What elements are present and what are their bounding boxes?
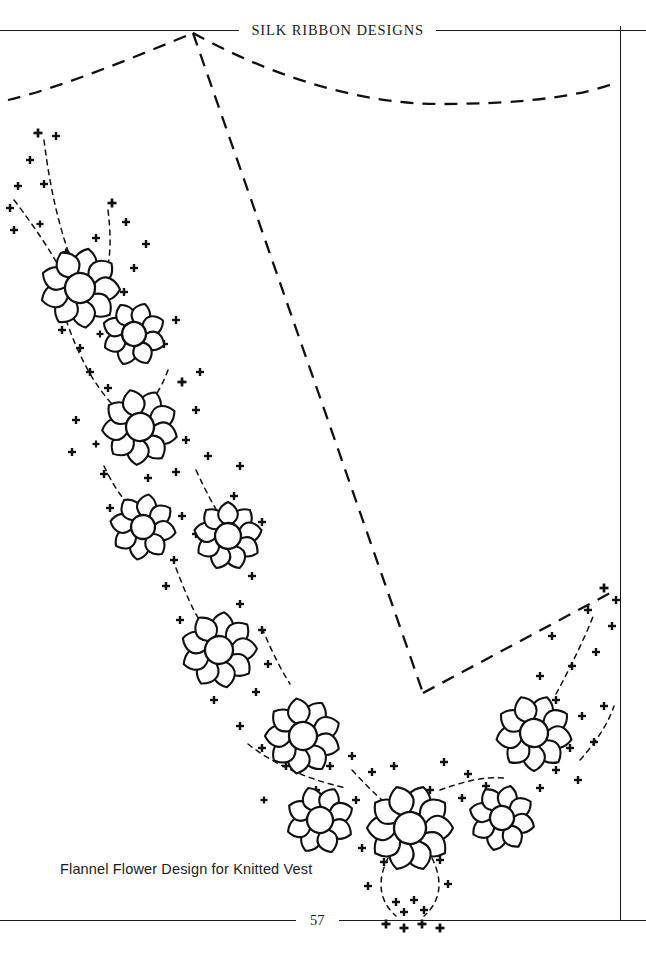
- cross-stitch-mark: [76, 344, 84, 352]
- cross-stitch-mark: [368, 768, 376, 776]
- cross-stitch-mark: [93, 441, 100, 448]
- cross-stitch-mark: [172, 468, 180, 476]
- cross-stitch-mark: [600, 702, 608, 710]
- flower-4: [105, 489, 181, 565]
- footer-rule-left-icon: [0, 920, 296, 921]
- footer-rule-right-icon: [339, 920, 646, 921]
- cross-stitch-mark: [182, 436, 190, 444]
- cross-stitch-mark: [248, 572, 256, 580]
- cross-stitch-mark: [144, 474, 152, 482]
- page-canvas: SILK RIBBON DESIGNS Flannel Flower Desig…: [0, 0, 646, 980]
- flower-11: [484, 684, 584, 784]
- cross-stitch-mark: [252, 688, 260, 696]
- cross-stitch-mark: [258, 626, 266, 634]
- cross-stitch-mark: [122, 218, 130, 226]
- cross-stitch-mark: [120, 288, 128, 296]
- cross-stitch-mark: [172, 316, 180, 324]
- cross-stitch-mark: [574, 776, 582, 784]
- cross-stitch-mark: [52, 132, 60, 140]
- cross-stitch-mark: [178, 378, 187, 387]
- cross-stitch-mark: [178, 512, 186, 520]
- flower-group: [31, 240, 584, 882]
- embroidery-pattern-artwork: [0, 0, 646, 980]
- pattern-svg: [0, 0, 646, 980]
- cross-stitch-mark: [264, 660, 272, 668]
- cross-stitch-mark: [100, 470, 108, 478]
- cross-stitch-mark: [14, 182, 22, 190]
- cross-stitch-mark: [326, 762, 334, 770]
- cross-stitch-mark: [170, 556, 178, 564]
- right-neckline-diagonal: [423, 592, 612, 693]
- cross-stitch-mark: [40, 180, 48, 188]
- cross-stitch-mark: [10, 226, 18, 234]
- flower-7: [249, 683, 356, 789]
- cross-stitch-mark: [176, 616, 184, 624]
- cross-stitch-mark: [6, 204, 14, 212]
- cross-stitch-mark: [458, 794, 466, 802]
- stem-left-chain: [66, 320, 112, 404]
- left-neckline-diagonal: [193, 33, 423, 693]
- cross-stitch-mark: [58, 326, 66, 334]
- cross-stitch-mark: [552, 696, 560, 704]
- flower-6: [175, 607, 264, 695]
- cross-stitch-mark: [258, 744, 266, 752]
- stem-left-upper: [44, 140, 72, 262]
- cross-stitch-mark: [106, 504, 114, 512]
- flower-10: [462, 778, 543, 859]
- cross-stitch-mark: [592, 648, 600, 656]
- flower-3: [88, 376, 192, 479]
- cross-stitch-mark: [536, 672, 544, 680]
- cross-stitch-mark: [97, 331, 104, 338]
- stem-right-chain2: [580, 706, 614, 760]
- cross-stitch-mark: [590, 738, 598, 746]
- cross-stitch-mark: [444, 880, 452, 888]
- cross-stitch-mark: [436, 856, 444, 864]
- stem-right-chain: [556, 614, 594, 694]
- cross-stitch-mark: [68, 448, 76, 456]
- cross-stitch-mark: [348, 752, 356, 760]
- cross-stitch-mark: [536, 784, 544, 792]
- cross-stitch-mark: [390, 762, 398, 770]
- cross-stitch-mark: [392, 898, 400, 906]
- cross-stitch-mark: [130, 264, 138, 272]
- cross-stitch-mark: [612, 596, 620, 604]
- right-shoulder-curve: [193, 33, 618, 104]
- stem-low-chain3: [440, 778, 504, 790]
- cross-stitch-mark: [236, 600, 244, 608]
- cross-stitch-mark: [578, 712, 586, 720]
- cross-stitch-mark: [552, 766, 560, 774]
- figure-caption: Flannel Flower Design for Knitted Vest: [60, 861, 312, 877]
- page-footer: 57: [0, 908, 646, 932]
- left-shoulder-curve: [8, 33, 193, 100]
- cross-stitch-mark: [230, 492, 238, 500]
- cross-stitch-mark: [410, 896, 418, 904]
- cross-stitch-mark: [548, 632, 556, 640]
- cross-stitch-mark: [236, 722, 244, 730]
- cross-stitch-mark: [92, 234, 100, 242]
- cross-stitch-mark: [608, 622, 616, 630]
- cross-stitch-mark: [568, 662, 576, 670]
- stem-mid-chain4: [262, 628, 290, 684]
- cross-stitch-mark: [352, 796, 360, 804]
- cross-stitch-mark: [37, 221, 44, 228]
- cross-stitch-mark: [108, 199, 117, 208]
- cross-stitch-mark: [440, 758, 448, 766]
- page-number: 57: [296, 912, 339, 929]
- cross-stitch-mark: [104, 384, 112, 392]
- cross-stitch-mark: [261, 797, 268, 804]
- cross-stitch-mark: [210, 696, 218, 704]
- cross-stitch-mark: [192, 406, 200, 414]
- flower-8: [275, 775, 365, 865]
- cross-stitch-mark: [204, 452, 212, 460]
- cross-stitch-mark: [258, 518, 266, 526]
- cross-stitch-mark: [358, 844, 366, 852]
- cross-stitch-mark: [236, 462, 244, 470]
- cross-stitch-mark: [364, 882, 372, 890]
- flower-petal: [218, 502, 237, 524]
- neckline-guide-group: [8, 33, 618, 693]
- cross-stitch-mark: [600, 584, 609, 593]
- flower-9: [354, 773, 466, 882]
- cross-stitch-mark: [34, 129, 43, 138]
- cross-stitch-mark: [142, 240, 150, 248]
- cross-stitch-mark: [162, 582, 170, 590]
